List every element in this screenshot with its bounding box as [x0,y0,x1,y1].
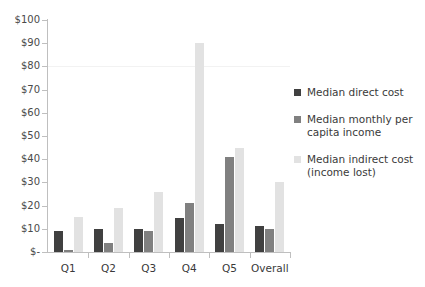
bar-group [255,20,284,252]
legend-item[interactable]: Median monthly per capita income [294,113,422,139]
bar-group [175,20,204,252]
bar [54,231,63,252]
x-axis-tick [88,252,89,258]
legend-item[interactable]: Median direct cost [294,86,422,99]
category-label: Q5 [209,262,249,274]
x-axis-tick [169,252,170,258]
y-axis-label: $40 [2,154,40,164]
bar [255,226,264,252]
bar [94,229,103,252]
bar [265,229,274,252]
bar [134,229,143,252]
legend-label: Median indirect cost (income lost) [307,153,422,179]
bar [104,243,113,252]
category-label: Overall [250,262,290,274]
bar [235,148,244,252]
x-axis-tick [290,252,291,258]
y-axis-label: $60 [2,108,40,118]
legend-swatch-icon [294,116,301,123]
bar-group [134,20,163,252]
x-axis-tick [209,252,210,258]
x-axis-tick [250,252,251,258]
bar-group [94,20,123,252]
y-axis-label: $90 [2,38,40,48]
legend-swatch-icon [294,89,301,96]
y-axis-label: $70 [2,85,40,95]
bar [114,208,123,252]
chart-legend: Median direct costMedian monthly per cap… [294,86,422,193]
x-axis-tick [129,252,130,258]
bar [195,43,204,252]
y-axis-label: $- [2,247,40,257]
y-axis-label: $80 [2,61,40,71]
bar-group [215,20,244,252]
bar [74,217,83,252]
y-axis-labels: $-$10$20$30$40$50$60$70$80$90$100 [0,0,40,287]
legend-item[interactable]: Median indirect cost (income lost) [294,153,422,179]
bar [64,250,73,252]
y-axis-label: $50 [2,131,40,141]
category-label: Q2 [88,262,128,274]
legend-label: Median monthly per capita income [307,113,422,139]
y-axis-label: $10 [2,224,40,234]
y-axis-label: $20 [2,201,40,211]
y-axis-label: $30 [2,177,40,187]
bar [154,192,163,252]
legend-swatch-icon [294,156,301,163]
bar-group [54,20,83,252]
bar-chart: $-$10$20$30$40$50$60$70$80$90$100 Q1Q2Q3… [0,0,425,287]
category-label: Q4 [169,262,209,274]
bar [225,157,234,252]
y-axis-label: $100 [2,15,40,25]
bar [175,218,184,252]
plot-area [48,20,290,252]
bar [185,203,194,252]
bar [215,224,224,252]
category-label: Q3 [129,262,169,274]
legend-label: Median direct cost [307,86,404,99]
bar [275,182,284,252]
category-label: Q1 [48,262,88,274]
bar [144,231,153,252]
